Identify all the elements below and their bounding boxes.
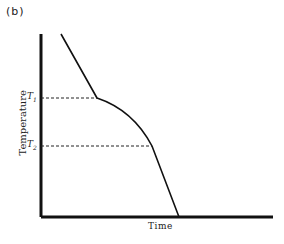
cooling-curve (61, 34, 179, 217)
y-axis-label: Temperature (17, 96, 28, 156)
t1-sub: 1 (33, 96, 37, 103)
cooling-curve-chart (0, 0, 284, 244)
x-axis-label: Time (148, 221, 173, 231)
t2-sub: 2 (33, 144, 37, 151)
t1-label: T1 (27, 91, 37, 103)
t2-label: T2 (27, 139, 37, 151)
